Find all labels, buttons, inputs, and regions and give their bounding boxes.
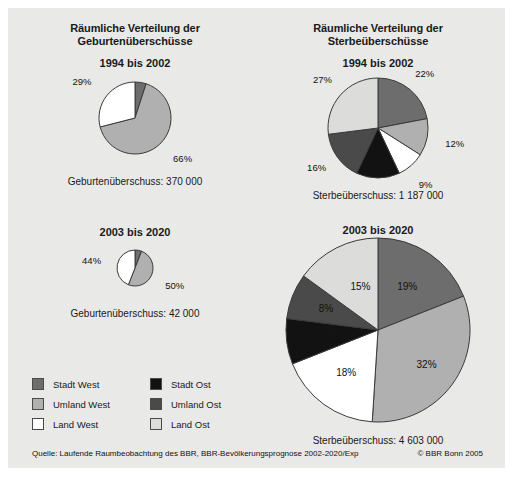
legend-item-label: Umland West <box>53 399 110 410</box>
pie-label-land-west: 29% <box>72 76 92 87</box>
pie-label-umland-ost: 16% <box>307 162 327 173</box>
births-caption-1: Geburtenüberschuss: 370 000 <box>22 176 248 187</box>
legend-swatch-icon <box>150 378 162 390</box>
legend-item-label: Land West <box>53 419 98 430</box>
chart-deaths-2003-2020: 19%32%18%8%8%15% <box>258 232 498 432</box>
chart-births-2003-2020: 6%50%44% <box>22 236 248 304</box>
legend-item-umland-ost[interactable]: Umland Ost <box>150 394 221 414</box>
pie-slice-land-ost[interactable] <box>328 78 378 134</box>
deaths-title-line2: Sterbeüberschüsse <box>328 35 428 47</box>
legend-item-stadt-west[interactable]: Stadt West <box>32 374 110 394</box>
pie-label-stadt-west: 22% <box>415 68 435 79</box>
pie-label-land-west: 9% <box>419 179 433 188</box>
pie-deaths-1994-2002-svg: 22%12%9%14%16%27% <box>258 66 498 188</box>
births-caption-2: Geburtenüberschuss: 42 000 <box>22 308 248 319</box>
pie-label-stadt-west: 6% <box>134 236 148 237</box>
pie-label-umland-west: 12% <box>445 138 465 149</box>
chart-births-1994-2002: 5%66%29% <box>22 70 248 170</box>
deaths-caption-1: Sterbeüberschuss: 1 187 000 <box>258 190 498 201</box>
pie-label-umland-west: 50% <box>165 280 185 291</box>
panel-deaths: Räumliche Verteilung der Sterbeüberschüs… <box>258 22 498 69</box>
legend-column-ost: Stadt OstUmland OstLand Ost <box>150 374 221 434</box>
pie-label-stadt-ost: 8% <box>323 330 338 341</box>
births-title-line2: Geburtenüberschüsse <box>78 35 193 47</box>
legend-item-stadt-ost[interactable]: Stadt Ost <box>150 374 221 394</box>
pie-label-stadt-west: 19% <box>397 281 417 292</box>
source-note: Quelle: Laufende Raumbeobachtung des BBR… <box>32 449 358 458</box>
legend-item-label: Land Ost <box>171 419 210 430</box>
legend-item-label: Umland Ost <box>171 399 221 410</box>
pie-label-land-west: 44% <box>82 255 102 266</box>
copyright-note: © BBR Bonn 2005 <box>418 449 484 458</box>
legend-column-west: Stadt WestUmland WestLand West <box>32 374 110 434</box>
legend-item-label: Stadt West <box>53 379 99 390</box>
births-period-1: 1994 bis 2002 <box>22 57 248 69</box>
pie-births-2003-2020-svg: 6%50%44% <box>22 236 248 304</box>
deaths-title-line1: Räumliche Verteilung der <box>313 22 443 34</box>
pie-births-1994-2002-svg: 5%66%29% <box>22 70 248 170</box>
panel-births: Räumliche Verteilung der Geburtenübersch… <box>22 22 248 69</box>
pie-label-umland-west: 66% <box>173 153 193 164</box>
chart-deaths-1994-2002: 22%12%9%14%16%27% <box>258 66 498 188</box>
pie-label-land-ost: 27% <box>313 74 333 85</box>
legend-swatch-icon <box>150 398 162 410</box>
births-title: Räumliche Verteilung der Geburtenübersch… <box>22 22 248 48</box>
legend-item-label: Stadt Ost <box>171 379 211 390</box>
deaths-caption-2: Sterbeüberschuss: 4 603 000 <box>258 435 498 446</box>
deaths-title: Räumliche Verteilung der Sterbeüberschüs… <box>258 22 498 48</box>
pie-label-land-west: 18% <box>336 367 356 378</box>
pie-deaths-2003-2020-svg: 19%32%18%8%8%15% <box>258 232 498 432</box>
legend-item-land-west[interactable]: Land West <box>32 414 110 434</box>
legend-item-land-ost[interactable]: Land Ost <box>150 414 221 434</box>
legend-item-umland-west[interactable]: Umland West <box>32 394 110 414</box>
legend-swatch-icon <box>32 398 44 410</box>
legend-swatch-icon <box>32 418 44 430</box>
legend-swatch-icon <box>150 418 162 430</box>
figure-panel: Räumliche Verteilung der Geburtenübersch… <box>8 8 505 468</box>
pie-label-umland-ost: 8% <box>319 303 334 314</box>
pie-label-umland-west: 32% <box>417 359 437 370</box>
legend-swatch-icon <box>32 378 44 390</box>
births-title-line1: Räumliche Verteilung der <box>70 22 200 34</box>
pie-label-land-ost: 15% <box>350 281 370 292</box>
